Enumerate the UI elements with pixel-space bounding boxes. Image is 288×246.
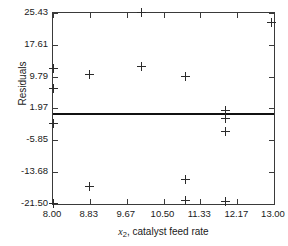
y-axis-tick-label: 1.97 — [0, 101, 48, 112]
plot-frame — [52, 12, 275, 205]
x-axis-tick-label: 13.00 — [243, 208, 288, 219]
y-axis-tick — [53, 172, 58, 173]
x-axis-tick — [200, 199, 201, 204]
y-axis-tick — [53, 45, 58, 46]
x-axis-tick — [127, 199, 128, 204]
data-point — [221, 197, 230, 206]
x-axis-tick-top — [53, 13, 54, 18]
x-axis-tick — [274, 199, 275, 204]
x-axis-tick-top — [90, 13, 91, 18]
y-axis-tick-right — [269, 45, 274, 46]
x-axis-tick-top — [200, 13, 201, 18]
data-point — [181, 175, 190, 184]
residual-scatter-figure: Residuals x2, catalyst feed rate -21.50-… — [0, 0, 288, 246]
x-axis-label: x2, catalyst feed rate — [52, 226, 275, 239]
data-point — [181, 72, 190, 81]
y-axis-tick-label: -5.85 — [0, 133, 48, 144]
x-axis-label-rest: , catalyst feed rate — [127, 226, 209, 237]
y-axis-tick-right — [269, 204, 274, 205]
data-point — [221, 127, 230, 136]
data-point — [85, 182, 94, 191]
y-axis-tick — [53, 204, 58, 205]
x-axis-tick — [164, 199, 165, 204]
y-axis-tick-label: -13.68 — [0, 165, 48, 176]
y-axis-tick — [53, 140, 58, 141]
x-axis-tick — [237, 199, 238, 204]
y-axis-tick-label: -21.50 — [0, 197, 48, 208]
y-axis-tick-right — [269, 172, 274, 173]
y-axis-tick — [53, 108, 58, 109]
data-point — [85, 70, 94, 79]
y-axis-tick-right — [269, 140, 274, 141]
data-point — [49, 84, 58, 93]
y-axis-tick-label: 25.43 — [0, 6, 48, 17]
data-point — [267, 18, 276, 27]
data-point — [137, 62, 146, 71]
x-axis-tick — [90, 199, 91, 204]
x-axis-tick-top — [274, 13, 275, 18]
x-axis-tick-top — [127, 13, 128, 18]
y-axis-tick-label: 9.79 — [0, 70, 48, 81]
data-point — [49, 119, 58, 128]
x-axis-tick-top — [237, 13, 238, 18]
data-point — [181, 196, 190, 205]
x-axis-tick-top — [164, 13, 165, 18]
data-point — [137, 8, 146, 17]
zero-reference-line — [53, 113, 274, 115]
x-axis-tick — [53, 199, 54, 204]
plot-canvas — [53, 13, 274, 204]
y-axis-tick-right — [269, 108, 274, 109]
y-axis-tick-right — [269, 77, 274, 78]
data-point — [49, 64, 58, 73]
y-axis-tick-label: 17.61 — [0, 38, 48, 49]
y-axis-tick — [53, 77, 58, 78]
